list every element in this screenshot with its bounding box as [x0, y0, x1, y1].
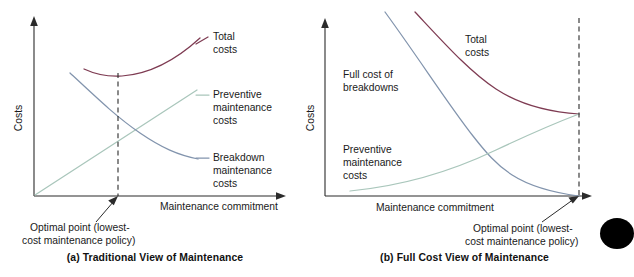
curve-breakdown-a: [70, 73, 198, 159]
series-label-breakdown-a: Breakdown maintenance costs: [213, 152, 272, 189]
chart-b-y-axis-label: Costs: [305, 105, 316, 131]
optimal-point-annotation-a-line1: Optimal point (lowest-: [30, 222, 130, 233]
series-label-breakdown-a-line1: Breakdown: [213, 152, 265, 163]
optimal-point-annotation-b: Optimal point (lowest- cost maintenance …: [465, 223, 578, 247]
chart-a-y-axis-label: Costs: [13, 105, 24, 131]
series-label-total-b: Total costs: [465, 34, 489, 58]
series-label-breakdown-b-line1: Full cost of: [343, 69, 393, 80]
series-label-preventive-b-line3: costs: [343, 170, 367, 181]
chart-b-x-axis-label: Maintenance commitment: [376, 202, 494, 213]
series-label-breakdown-a-line3: costs: [213, 178, 237, 189]
chart-b-y-axis: [321, 18, 329, 196]
series-label-preventive-b-line1: Preventive: [343, 144, 392, 155]
chart-a-y-axis: [30, 16, 38, 196]
chart-a-x-axis: [34, 192, 286, 200]
series-label-total-a: Total costs: [213, 31, 237, 55]
series-label-preventive-a: Preventive maintenance costs: [213, 89, 272, 126]
panel-traditional-view: Costs Maintenance commitment Total costs…: [0, 0, 310, 277]
series-label-total-b-line1: Total: [465, 34, 487, 45]
series-label-breakdown-a-line2: maintenance: [213, 165, 272, 176]
optimal-point-leader-b: [542, 196, 579, 222]
chart-a-x-axis-label: Maintenance commitment: [160, 201, 278, 212]
series-label-breakdown-b: Full cost of breakdowns: [343, 69, 399, 93]
series-label-preventive-b-line2: maintenance: [343, 157, 402, 168]
chart-a-svg: Costs Maintenance commitment Total costs…: [0, 0, 310, 250]
panel-b-caption: (b) Full Cost View of Maintenance: [310, 252, 619, 263]
curve-total-a: [84, 38, 200, 76]
optimal-point-annotation-b-line1: Optimal point (lowest-: [473, 223, 573, 234]
chart-b-x-axis: [325, 192, 592, 200]
series-label-preventive-a-line2: maintenance: [213, 102, 272, 113]
series-label-preventive-a-line3: costs: [213, 115, 237, 126]
series-label-total-a-line2: costs: [213, 44, 237, 55]
chart-b-svg: Costs Maintenance commitment Total costs…: [310, 0, 619, 250]
panel-a-caption: (a) Traditional View of Maintenance: [0, 252, 310, 263]
optimal-point-leader-a: [96, 196, 118, 222]
series-label-breakdown-b-line2: breakdowns: [343, 82, 399, 93]
series-label-preventive-a-line1: Preventive: [213, 89, 262, 100]
optimal-point-annotation-b-line2: cost maintenance policy): [465, 236, 578, 247]
series-label-total-a-line1: Total: [213, 31, 235, 42]
optimal-point-annotation-a: Optimal point (lowest- cost maintenance …: [22, 222, 135, 246]
optimal-point-annotation-a-line2: cost maintenance policy): [22, 235, 135, 246]
curve-preventive-a: [35, 90, 197, 195]
panel-full-cost-view: Costs Maintenance commitment Total costs…: [310, 0, 619, 277]
curve-total-b: [415, 12, 579, 114]
series-label-total-b-line2: costs: [465, 47, 489, 58]
page-edge-artifact: [600, 218, 634, 249]
series-label-preventive-b: Preventive maintenance costs: [343, 144, 402, 181]
